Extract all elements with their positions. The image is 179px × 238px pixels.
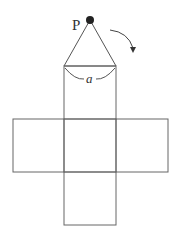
apex-point	[86, 16, 94, 24]
angle-arc-right	[96, 68, 115, 79]
apex-label: P	[72, 17, 80, 33]
left-square	[13, 119, 64, 172]
right-square	[116, 119, 168, 172]
net-diagram: a P	[0, 0, 179, 238]
center-square	[64, 119, 116, 172]
angle-label: a	[86, 71, 93, 86]
cross-net	[13, 66, 168, 225]
angle-arc	[65, 68, 84, 79]
bottom-square	[64, 172, 116, 225]
rotation-arrow-icon	[110, 30, 136, 53]
